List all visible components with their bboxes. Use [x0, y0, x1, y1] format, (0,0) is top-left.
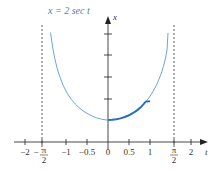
tick-label: −2	[20, 147, 30, 157]
x-axis-label: x	[112, 12, 117, 22]
t-axis-label: t	[205, 147, 208, 157]
t-tick-labels: −2 − π 2 −1 −0.5 0 0.5 1 π 2 2	[20, 145, 193, 165]
tick-label: 1	[148, 147, 153, 157]
tick-label: 0	[106, 147, 111, 157]
tick-label: −0.5	[79, 147, 96, 157]
chart: x = 2 sec t x t −2 − π 2 −1 −0.5 0 0.5 1…	[0, 0, 219, 171]
tick-label: 0.5	[123, 147, 135, 157]
curve-title: x = 2 sec t	[47, 5, 90, 16]
tick-label: π	[172, 145, 177, 155]
tick-label: −	[33, 147, 38, 157]
tick-label: −1	[61, 147, 71, 157]
curve-highlight-segment	[108, 101, 150, 120]
tick-label: 2	[189, 147, 194, 157]
t-axis-arrow-icon	[200, 139, 208, 145]
tick-label: π	[42, 145, 47, 155]
tick-label: 2	[42, 155, 47, 165]
curve-2sec-t	[51, 33, 169, 121]
x-axis-arrow-icon	[105, 16, 111, 24]
tick-label: 2	[172, 155, 177, 165]
